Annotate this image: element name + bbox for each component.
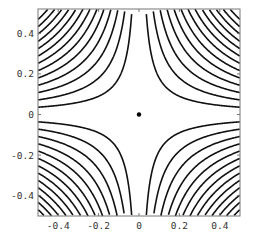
contour-line (38, 9, 104, 77)
contour-line (175, 151, 239, 216)
contour-line (38, 10, 54, 27)
contour-line (230, 9, 239, 19)
x-tick-label: 0.4 (211, 220, 228, 231)
saddle-point-marker (137, 112, 141, 116)
x-tick-label: -0.4 (47, 220, 70, 231)
contour-line (174, 9, 240, 77)
contour-line (234, 210, 240, 216)
contour-line (38, 9, 47, 19)
y-axis: -0.4-0.200.20.4 (11, 28, 240, 201)
x-tick-label: -0.2 (87, 220, 110, 231)
y-tick-label: 0.2 (17, 68, 34, 79)
y-tick-label: 0.4 (17, 28, 34, 39)
y-tick-label: -0.2 (11, 150, 34, 161)
x-tick-label: 0 (136, 220, 142, 231)
contour-line (38, 151, 102, 216)
contour-line (38, 10, 61, 34)
x-tick-label: 0.2 (171, 220, 188, 231)
y-tick-label: -0.4 (11, 190, 34, 201)
contour-line (38, 210, 44, 216)
contour-line (216, 10, 239, 34)
contour-plot: -0.4-0.200.20.4 -0.4-0.200.20.4 (0, 0, 253, 248)
contour-line (223, 10, 239, 27)
y-tick-label: 0 (28, 109, 34, 120)
